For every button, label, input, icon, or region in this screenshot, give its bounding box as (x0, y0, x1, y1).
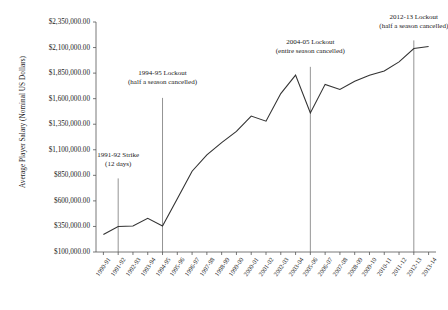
y-axis-tick-label: $2,100,000.00 (26, 44, 90, 52)
annotation-line-2: (12 days) (97, 160, 139, 169)
annotation-line-2: (entire season cancelled) (276, 47, 345, 56)
annotation-line-2: (half a season cancelled) (128, 78, 197, 87)
y-axis-tick-label: $1,350,000.00 (26, 120, 90, 128)
annotation-line-1: 1991-92 Strike (97, 151, 139, 160)
annotation-line-1: 2004-05 Lockout (276, 38, 345, 47)
annotation-line-1: 2012-13 Lockout (379, 13, 448, 22)
annotation-strike-1991-92: 1991-92 Strike(12 days) (97, 151, 139, 169)
y-axis-tick-label: $1,850,000.00 (26, 69, 90, 77)
axes (96, 22, 436, 252)
annotation-line-2: (half a season cancelled) (379, 22, 448, 31)
y-axis-ticks (93, 22, 96, 252)
y-axis-tick-label: $1,600,000.00 (26, 95, 90, 103)
plot-area (96, 22, 436, 252)
y-axis-tick-labels: $100,000.00$350,000.00$600,000.00$850,00… (26, 0, 90, 310)
y-axis-tick-label: $2,350,000.00 (26, 18, 90, 26)
plot-svg (96, 22, 436, 252)
y-axis-tick-label: $1,100,000.00 (26, 146, 90, 154)
y-axis-tick-label: $350,000.00 (26, 222, 90, 230)
y-axis-tick-label: $600,000.00 (26, 197, 90, 205)
annotation-lockout-1994-95: 1994-95 Lockout(half a season cancelled) (128, 69, 197, 87)
y-axis-tick-label: $100,000.00 (26, 248, 90, 256)
y-axis-tick-label: $850,000.00 (26, 171, 90, 179)
x-axis-ticks (103, 252, 428, 255)
annotation-line-1: 1994-95 Lockout (128, 69, 197, 78)
annotation-lockout-2004-05: 2004-05 Lockout(entire season cancelled) (276, 38, 345, 56)
annotation-lockout-2012-13: 2012-13 Lockout(half a season cancelled) (379, 13, 448, 31)
x-axis-tick-labels: 1990-911991-921992-931993-941994-951995-… (96, 256, 436, 310)
